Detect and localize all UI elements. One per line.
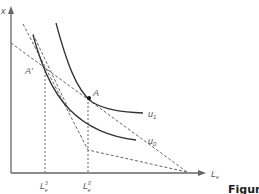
tick-label-L0: L0e — [83, 180, 91, 193]
point-A-label: A — [92, 88, 99, 98]
point-A — [87, 96, 91, 100]
x-axis-arrow-icon — [198, 170, 206, 176]
tick-label-L3: L3e — [40, 180, 48, 193]
y-axis-label: x — [0, 6, 6, 16]
point-A-prime-label: A′ — [24, 66, 33, 76]
diagram-canvas: x Le A A′ u1 u0 L3e L0e Figur — [0, 0, 259, 194]
x-axis-label: Le — [211, 169, 219, 180]
figure-caption: Figur — [228, 183, 259, 194]
indifference-curve-u0 — [33, 35, 136, 140]
y-axis-arrow-icon — [8, 6, 14, 14]
indifference-curve-u1 — [56, 23, 143, 113]
budget-line-shallow — [11, 43, 187, 172]
curve-label-u1: u1 — [148, 109, 156, 120]
curve-label-u0: u0 — [148, 136, 157, 147]
budget-line-kinked — [23, 24, 187, 172]
